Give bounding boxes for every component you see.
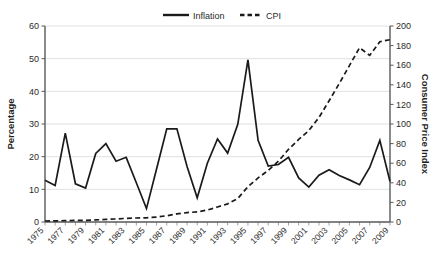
x-axis-tick-label: 2001 [289,225,310,246]
left-axis-tick-label: 60 [29,21,39,31]
x-axis-tick-label: 1977 [45,225,66,246]
left-axis-tick-label: 50 [29,54,39,64]
left-axis-tick-labels: 0102030405060 [29,21,39,227]
x-axis-tick-label: 1981 [86,225,107,246]
right-axis-tick-label: 60 [396,158,406,168]
left-axis-tick-label: 20 [29,152,39,162]
x-axis-tick-label: 2009 [370,225,391,246]
x-axis-tick-label: 2005 [329,225,350,246]
legend-label-inflation: Inflation [193,11,225,21]
x-axis-tick-label: 2003 [309,225,330,246]
right-axis-tick-label: 40 [396,178,406,188]
x-axis-tick-label: 2007 [350,225,371,246]
right-axis-tick-label: 0 [396,217,401,227]
right-axis-tick-labels: 020406080100120140160180200 [396,21,411,227]
right-axis-tick-label: 100 [396,119,411,129]
x-axis-tick-label: 1997 [248,225,269,246]
x-axis-tick-label: 1987 [147,225,168,246]
x-axis-tick-label: 1995 [228,225,249,246]
x-axis-tick-labels: 1975197719791981198319851987198919911993… [25,225,391,246]
right-axis-tick-label: 140 [396,80,411,90]
x-axis-tick-label: 1983 [106,225,127,246]
left-axis-title: Percentage [5,98,16,149]
chart-container: 0102030405060 02040608010012014016018020… [0,0,432,265]
x-axis-tick-label: 1991 [187,225,208,246]
x-axis-tick-label: 1989 [167,225,188,246]
left-axis-tick-label: 40 [29,87,39,97]
chart-legend: Inflation CPI [163,11,281,21]
x-axis-tick-label: 1985 [126,225,147,246]
x-axis-tick-label: 1999 [268,225,289,246]
right-axis-title-text: Consumer Price Index [420,74,431,175]
right-axis-title: Consumer Price Index [420,74,431,175]
left-axis-tick-label: 10 [29,185,39,195]
inflation-cpi-line-chart: 0102030405060 02040608010012014016018020… [0,0,432,265]
left-axis-tick-label: 30 [29,119,39,129]
left-axis-title-text: Percentage [5,98,16,149]
right-axis-tick-label: 20 [396,198,406,208]
right-axis-tick-label: 160 [396,60,411,70]
right-axis-tick-label: 120 [396,100,411,110]
legend-label-cpi: CPI [266,11,281,21]
right-axis-tick-label: 200 [396,21,411,31]
right-axis-tick-label: 180 [396,41,411,51]
right-axis-tick-label: 80 [396,139,406,149]
x-axis-tick-label: 1975 [25,225,46,246]
x-axis-tick-label: 1979 [66,225,87,246]
x-axis-tick-label: 1993 [208,225,229,246]
